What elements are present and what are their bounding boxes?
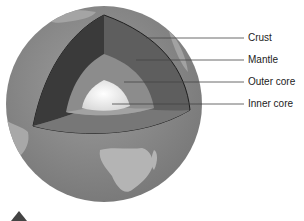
label-mantle: Mantle xyxy=(248,54,278,66)
triangle-marker-icon xyxy=(11,211,27,221)
label-crust: Crust xyxy=(248,32,272,44)
label-inner-core: Inner core xyxy=(248,98,293,110)
label-outer-core: Outer core xyxy=(248,76,295,88)
